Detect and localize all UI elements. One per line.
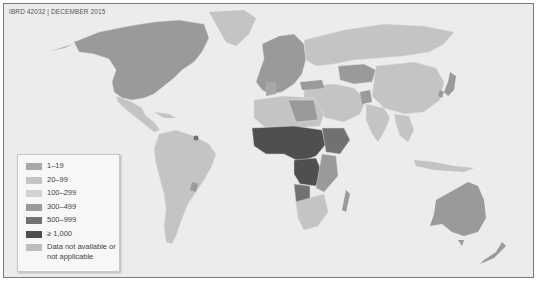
region-guyana: [194, 136, 199, 141]
legend-swatch: [26, 244, 42, 251]
region-alaska-tail: [46, 44, 74, 52]
region-iberia: [266, 82, 276, 96]
region-afghanistan: [360, 90, 372, 104]
legend-item-20-99: 20–99: [26, 175, 119, 189]
region-indonesia: [414, 160, 474, 172]
region-australia: [430, 182, 486, 236]
region-caribbean: [154, 112, 176, 118]
map-legend: 1–19 20–99 100–299 300–499 500–999 ≥ 1,0…: [17, 154, 120, 272]
legend-swatch: [26, 217, 42, 224]
legend-label: 300–499: [47, 202, 76, 212]
region-horn-africa: [322, 128, 350, 154]
region-se-asia: [394, 114, 414, 142]
legend-label: ≥ 1,000: [47, 229, 72, 239]
region-russia: [304, 24, 454, 66]
region-india: [366, 104, 390, 142]
region-europe: [256, 34, 306, 94]
region-mexico: [116, 96, 160, 132]
legend-label: 500–999: [47, 215, 76, 225]
map-caption: IBRD 42032 | DECEMBER 2015: [9, 8, 105, 15]
legend-label: 100–299: [47, 188, 76, 198]
legend-label: Data not available or not applicable: [47, 242, 117, 262]
region-north-america: [74, 20, 209, 100]
region-kazakhstan: [338, 64, 376, 84]
legend-swatch: [26, 177, 42, 184]
region-east-africa: [316, 154, 338, 192]
region-tasmania: [458, 240, 464, 246]
legend-label: 1–19: [47, 161, 64, 171]
map-frame: IBRD 42032 | DECEMBER 2015 1–19 20–99 10…: [3, 3, 534, 278]
legend-swatch: [26, 231, 42, 238]
legend-item-300-499: 300–499: [26, 202, 119, 216]
legend-item-500-999: 500–999: [26, 215, 119, 229]
legend-swatch: [26, 190, 42, 197]
region-sahel: [252, 126, 326, 162]
legend-item-not-available: Data not available or not applicable: [26, 242, 119, 266]
region-new-zealand: [480, 242, 506, 264]
region-japan: [444, 72, 456, 96]
legend-label: 20–99: [47, 175, 68, 185]
region-greenland: [209, 10, 256, 46]
legend-item-1-19: 1–19: [26, 161, 119, 175]
legend-item-1000-plus: ≥ 1,000: [26, 229, 119, 243]
legend-swatch: [26, 163, 42, 170]
region-madagascar: [342, 190, 350, 212]
region-china: [372, 62, 444, 114]
region-south-america: [154, 130, 216, 244]
legend-swatch: [26, 204, 42, 211]
legend-item-100-299: 100–299: [26, 188, 119, 202]
